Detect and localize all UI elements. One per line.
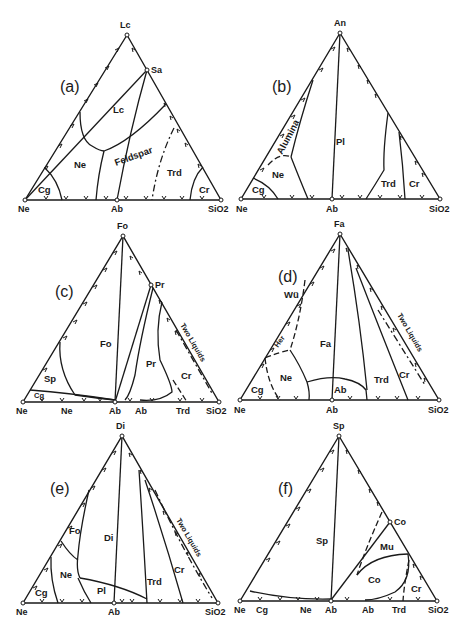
panel-c-left-label: Ne <box>16 406 28 416</box>
panel-c-field-fo: Fo <box>100 338 112 349</box>
panel-f-join-sp-ab <box>331 436 339 601</box>
panel-f-field-cr: Cr <box>411 583 422 594</box>
panel-b-vertex-ne <box>239 197 243 201</box>
panel-e-right-label: SiO2 <box>205 607 226 617</box>
panel-a-vertex-sa <box>145 68 149 72</box>
panel-b-field-cg: Cg <box>252 184 265 195</box>
panel-a-apex-label: Lc <box>120 20 131 30</box>
panel-e-fo-ne-boundary <box>61 541 78 560</box>
panel-f-sp-mu-dashed <box>357 512 382 575</box>
panel-a-vertex-apex <box>125 33 129 37</box>
panel-d-field-ne: Ne <box>280 372 292 383</box>
panel-d-field-two-liquids: Two Liquids <box>395 312 424 354</box>
panel-a-triangle <box>25 35 221 200</box>
panel-b-triangle <box>241 33 440 199</box>
panel-c-pr-label: Pr <box>155 280 165 290</box>
panel-f-vertex-sio2 <box>435 599 439 603</box>
panel-d-join-fa-ab <box>332 234 340 400</box>
panel-e-mid-label: Ab <box>108 607 120 617</box>
panel-c-trd-dashed <box>173 380 187 402</box>
panel-f-bottom-ab: Ab <box>362 605 374 615</box>
panel-d-label: (d) <box>278 268 298 285</box>
panel-a-field-lc: Lc <box>113 104 124 115</box>
panel-e-left-label: Ne <box>16 607 28 617</box>
panel-c-sp-boundary <box>60 342 115 400</box>
panel-c-field-cg: Cg <box>34 391 44 400</box>
panel-a-vertex-ne <box>23 198 27 202</box>
panel-f-vertex-ab <box>329 599 333 603</box>
panel-f-right-label: SiO2 <box>428 605 449 615</box>
panel-d-vertex-ne <box>238 398 242 402</box>
panel-b-field-cr: Cr <box>409 178 420 189</box>
panel-f-vertex-ne <box>238 599 242 603</box>
panel-b-mid-label: Ab <box>326 204 338 214</box>
panel-a-label: (a) <box>60 78 80 95</box>
panel-c-vertex-apex <box>121 234 125 238</box>
panel-e-cg-ne-boundary <box>51 557 58 603</box>
panel-c-apex-label: Fo <box>117 221 128 231</box>
panel-a-left-label: Ne <box>18 204 30 214</box>
panel-e-apex-label: Di <box>116 421 125 431</box>
panel-a-vertex-sio2 <box>219 198 223 202</box>
panel-b-cr-boundary <box>399 132 405 199</box>
panel-c-vertex-sio2 <box>217 400 221 404</box>
panel-b-alumina-boundary <box>291 80 313 157</box>
panel-e: (e) Di Ne Ab SiO2 Fo Di Ne Pl Trd Cr Cg … <box>16 421 226 617</box>
panel-e-field-di: Di <box>104 532 114 543</box>
panel-d-vertex-sio2 <box>437 398 441 402</box>
panel-f-field-co: Co <box>368 574 381 585</box>
panel-b-field-pl: Pl <box>336 136 345 147</box>
panel-f-bottom-ne: Ne <box>300 605 312 615</box>
panel-f-co-label: Co <box>394 517 406 527</box>
panel-c-pr-cr-boundary <box>140 302 172 400</box>
panel-f-label: (f) <box>278 480 293 497</box>
panel-e-vertex-ab <box>112 601 116 605</box>
panel-d-field-cg: Cg <box>251 384 264 395</box>
panel-d-field-her: Her <box>272 334 287 349</box>
panel-f-vertex-apex <box>337 434 341 438</box>
panel-c-bottom-trd: Trd <box>176 406 190 416</box>
panel-d-mid-label: Ab <box>326 405 338 415</box>
panel-b-vertex-apex <box>338 31 342 35</box>
panel-a-field-ne: Ne <box>74 159 86 170</box>
panel-a-field-trd: Trd <box>167 167 182 178</box>
panel-d-apex-label: Fa <box>334 219 345 229</box>
panel-c-field-sp: Sp <box>44 373 56 384</box>
panel-f-left-label: Ne <box>234 605 246 615</box>
panel-d-field-ab: Ab <box>334 384 347 395</box>
panel-e-field-cr: Cr <box>174 564 185 575</box>
panel-c-fo-pr-boundary <box>125 288 153 400</box>
panel-d: (d) Fa Ne Ab SiO2 Wü Her Fa Ne Ab Trd Cr… <box>234 219 449 415</box>
panel-d-right-label: SiO2 <box>428 405 449 415</box>
panel-c-vertex-ab <box>113 400 117 404</box>
panel-c-vertex-pr <box>149 283 153 287</box>
panel-d-vertex-apex <box>338 232 342 236</box>
panel-d-field-cr: Cr <box>399 369 410 380</box>
panel-b-label: (b) <box>272 78 292 95</box>
panel-a: (a) Lc Sa Ne Ab SiO2 Lc Ne Feldspar Trd … <box>18 20 229 214</box>
panel-c-right-label: SiO2 <box>206 406 227 416</box>
panel-e-field-fo: Fo <box>69 525 81 536</box>
panel-a-field-feldspar: Feldspar <box>113 144 154 168</box>
panel-b-field-ne: Ne <box>272 169 284 180</box>
panel-c-bottom-ab: Ab <box>135 406 147 416</box>
panel-c-bottom-ne: Ne <box>61 406 73 416</box>
panel-f-mid-label: Ab <box>325 605 337 615</box>
panel-e-vertex-ne <box>21 601 25 605</box>
panel-a-field-cg: Cg <box>38 184 51 195</box>
panel-c-label: (c) <box>55 283 74 300</box>
panel-e-field-pl: Pl <box>97 585 106 596</box>
panel-e-field-ne: Ne <box>60 569 72 580</box>
panel-b-vertex-sio2 <box>438 197 442 201</box>
panel-f: (f) Sp Co Ne Ab SiO2 Sp Mu Co Cr Cg Ne A… <box>234 421 449 615</box>
panel-f-bottom-trd: Trd <box>392 605 406 615</box>
panel-e-field-cg: Cg <box>35 587 48 598</box>
panel-c-field-pr: Pr <box>146 358 156 369</box>
panel-f-join-co-ab <box>331 522 390 600</box>
panel-a-trd-boundary <box>152 128 174 200</box>
panel-b-arrow-ticks <box>260 47 425 198</box>
panel-a-right-label: SiO2 <box>208 204 229 214</box>
panel-b-ne-pl-boundary <box>291 157 308 199</box>
panel-c-vertex-ne <box>21 400 25 404</box>
panel-d-left-label: Ne <box>234 405 246 415</box>
